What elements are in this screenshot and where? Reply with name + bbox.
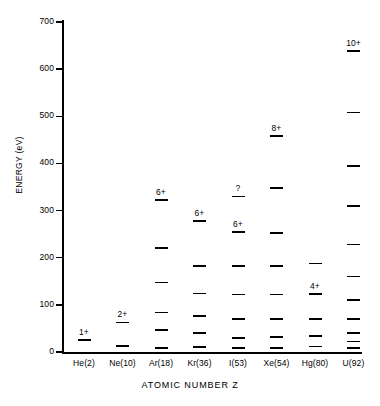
charge-state-label: 8+ — [254, 124, 300, 133]
energy-level-tick — [232, 318, 245, 320]
energy-level-tick — [155, 347, 168, 349]
energy-level-tick — [270, 265, 283, 267]
energy-level-tick — [270, 336, 283, 338]
energy-level-tick — [270, 187, 283, 189]
energy-level-tick — [347, 205, 360, 207]
y-tick-mark — [56, 116, 63, 118]
energy-level-tick — [232, 347, 245, 349]
y-tick-label: 500 — [14, 111, 54, 120]
y-tick-label: 0 — [14, 347, 54, 356]
y-tick-mark — [56, 304, 63, 306]
y-tick-mark — [56, 163, 63, 165]
energy-level-tick — [193, 315, 206, 317]
y-tick-label: 200 — [14, 253, 54, 262]
energy-level-tick — [347, 299, 360, 301]
energy-level-tick — [232, 231, 245, 233]
energy-level-tick — [155, 329, 168, 331]
energy-level-tick — [193, 220, 206, 222]
charge-state-label: 6+ — [138, 188, 184, 197]
energy-level-tick — [155, 282, 168, 284]
y-tick-label: 100 — [14, 300, 54, 309]
energy-level-tick — [347, 318, 360, 320]
energy-level-tick — [309, 293, 322, 295]
charge-state-label: 2+ — [100, 310, 146, 319]
y-tick-mark — [56, 351, 63, 353]
energy-level-tick — [309, 335, 322, 337]
y-tick-mark — [56, 21, 63, 23]
charge-state-label: ? — [215, 184, 261, 193]
energy-level-tick — [116, 345, 129, 347]
y-tick-mark — [56, 210, 63, 212]
energy-level-tick — [347, 332, 360, 334]
energy-level-tick — [193, 332, 206, 334]
charge-state-label: 6+ — [177, 209, 223, 218]
y-tick-mark — [56, 68, 63, 70]
energy-level-tick — [232, 196, 245, 198]
y-tick-label: 700 — [14, 17, 54, 26]
energy-level-tick — [270, 232, 283, 234]
energy-level-tick — [347, 347, 360, 349]
energy-level-tick — [155, 247, 168, 249]
energy-level-tick — [270, 294, 283, 296]
ionization-energy-level-chart: ENERGY (eV) ATOMIC NUMBER Z 010020030040… — [0, 0, 380, 406]
energy-level-tick — [347, 50, 360, 52]
energy-level-tick — [232, 294, 245, 296]
charge-state-label: 4+ — [292, 282, 338, 291]
x-tick-label-u92: U(92) — [324, 358, 380, 368]
energy-level-tick — [155, 199, 168, 201]
energy-level-tick — [193, 293, 206, 295]
energy-level-tick — [309, 346, 322, 348]
energy-level-tick — [270, 347, 283, 349]
energy-level-tick — [347, 341, 360, 343]
y-tick-label: 600 — [14, 64, 54, 73]
energy-level-tick — [270, 135, 283, 137]
energy-level-tick — [232, 265, 245, 267]
x-axis-line — [62, 352, 362, 354]
energy-level-tick — [270, 318, 283, 320]
energy-level-tick — [116, 322, 129, 324]
energy-level-tick — [347, 276, 360, 278]
y-tick-mark — [56, 257, 63, 259]
charge-state-label: 10+ — [331, 39, 377, 48]
energy-level-tick — [347, 165, 360, 167]
y-tick-label: 400 — [14, 158, 54, 167]
energy-level-tick — [193, 265, 206, 267]
energy-level-tick — [347, 112, 360, 114]
energy-level-tick — [309, 263, 322, 265]
energy-level-tick — [232, 337, 245, 339]
y-tick-label: 300 — [14, 206, 54, 215]
energy-level-tick — [155, 312, 168, 314]
charge-state-label: 6+ — [215, 220, 261, 229]
energy-level-tick — [193, 346, 206, 348]
x-axis-title: ATOMIC NUMBER Z — [0, 380, 380, 390]
energy-level-tick — [78, 339, 91, 341]
energy-level-tick — [309, 318, 322, 320]
energy-level-tick — [347, 244, 360, 246]
charge-state-label: 1+ — [61, 328, 107, 337]
